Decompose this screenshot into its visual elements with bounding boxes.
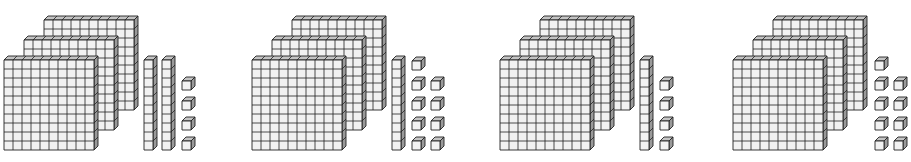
ones-cube [894, 117, 907, 130]
ones-cube [660, 97, 673, 110]
block-group-3 [500, 16, 673, 150]
ones-cube [412, 97, 425, 110]
hundreds-flat [4, 56, 98, 150]
tens-rod [640, 56, 653, 150]
ones-cube [412, 137, 425, 150]
ones-cube [182, 97, 195, 110]
ones-cube [875, 57, 888, 70]
blocks-canvas [0, 0, 911, 162]
ones-cube [875, 117, 888, 130]
block-group-4 [733, 16, 907, 150]
tens-rod [392, 56, 405, 150]
ones-cube [431, 117, 444, 130]
ones-cube [894, 77, 907, 90]
ones-cube [431, 97, 444, 110]
tens-rod [144, 56, 157, 150]
block-group-1 [4, 16, 195, 150]
ones-cube [660, 77, 673, 90]
ones-cube [182, 77, 195, 90]
hundreds-flat [252, 56, 346, 150]
ones-cube [894, 97, 907, 110]
tens-rod [162, 56, 175, 150]
ones-cube [875, 97, 888, 110]
block-group-2 [252, 16, 444, 150]
ones-cube [182, 137, 195, 150]
ones-cube [894, 137, 907, 150]
ones-cube [660, 137, 673, 150]
ones-cube [412, 57, 425, 70]
hundreds-flat [733, 56, 827, 150]
base-ten-blocks-figure: 324 319 314 309 [0, 0, 911, 162]
ones-cube [182, 117, 195, 130]
ones-cube [875, 137, 888, 150]
ones-cube [431, 77, 444, 90]
ones-cube [412, 117, 425, 130]
hundreds-flat [500, 56, 594, 150]
ones-cube [875, 77, 888, 90]
ones-cube [660, 117, 673, 130]
ones-cube [412, 77, 425, 90]
ones-cube [431, 137, 444, 150]
